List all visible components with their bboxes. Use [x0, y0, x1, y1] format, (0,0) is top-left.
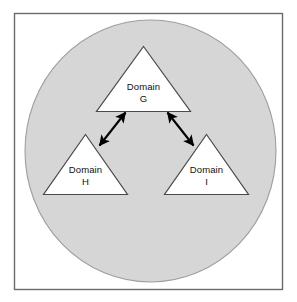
domain-h-label-line2: H: [82, 176, 89, 187]
domain-g-label-line2: G: [140, 93, 148, 104]
domain-trust-diagram: Domain G Domain H Domain I: [0, 0, 297, 302]
domain-g-label-line1: Domain: [127, 81, 160, 92]
domain-h-label-line1: Domain: [69, 164, 102, 175]
domain-i-label-line1: Domain: [190, 164, 223, 175]
figure-root: Domain G Domain H Domain I: [0, 0, 297, 302]
domain-i-label-line2: I: [205, 176, 208, 187]
